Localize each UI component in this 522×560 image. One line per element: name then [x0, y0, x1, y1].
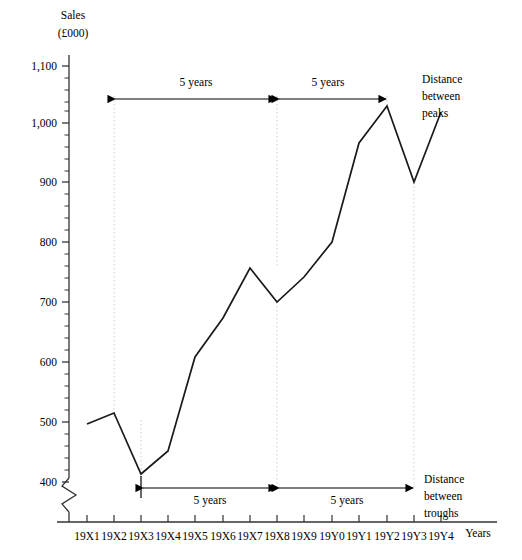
x-axis-label-19Y3: 19Y3: [401, 530, 427, 542]
chart-canvas: Sales (£000): [0, 0, 522, 560]
bottom-span-1-label: 5 years: [194, 494, 227, 507]
x-axis-label-19X6: 19X6: [210, 530, 236, 542]
x-axis-label-19Y0: 19Y0: [319, 530, 345, 542]
x-axis-label-19Y2: 19Y2: [374, 530, 400, 542]
y-axis-minor-ticks: [65, 78, 70, 470]
y-axis-label-800: 800: [40, 236, 58, 248]
y-axis-label-900: 900: [40, 176, 58, 188]
x-axis-labels: 19X1 19X2 19X3 19X4 19X5 19X6 19X7 19X8 …: [74, 530, 454, 542]
annotation-top-span-1: 5 years: [115, 76, 276, 99]
x-axis-label-19X1: 19X1: [74, 530, 100, 542]
sales-line-series: [87, 106, 441, 474]
bottom-span-2-label: 5 years: [331, 494, 364, 507]
x-axis-label-19X7: 19X7: [237, 530, 263, 542]
y-axis-label-700: 700: [40, 296, 58, 308]
top-span-1-label: 5 years: [180, 76, 213, 89]
sales-trend-chart: Sales (£000): [0, 0, 522, 560]
annotation-peaks-note: Distance between peaks: [422, 73, 462, 120]
peaks-note-line1: Distance: [422, 73, 462, 85]
troughs-note-line2: between: [424, 490, 463, 502]
top-span-2-label: 5 years: [312, 76, 345, 89]
annotation-troughs-note: Distance between troughs: [424, 473, 464, 520]
y-axis-label-1100: 1,100: [31, 60, 57, 73]
y-axis-title-line1: Sales: [61, 9, 86, 21]
peaks-note-line2: between: [422, 90, 461, 102]
guide-lines: [114, 96, 414, 487]
x-axis-title: Years: [465, 527, 491, 539]
y-axis-label-400: 400: [40, 476, 58, 488]
x-axis-label-19X3: 19X3: [128, 530, 154, 542]
y-axis-title-line2: (£000): [58, 27, 89, 40]
x-axis-label-19X2: 19X2: [101, 530, 127, 542]
peaks-note-line3: peaks: [422, 107, 449, 120]
y-axis-label-500: 500: [40, 416, 58, 428]
y-axis-ticks: [62, 66, 69, 482]
annotation-bottom-span-1: 5 years: [143, 488, 276, 507]
x-axis-label-19Y1: 19Y1: [346, 530, 372, 542]
x-axis-ticks: [87, 515, 441, 522]
x-axis-label-19Y4: 19Y4: [428, 530, 454, 542]
x-axis-label-19X8: 19X8: [264, 530, 290, 542]
troughs-note-line3: troughs: [424, 507, 459, 520]
troughs-note-line1: Distance: [424, 473, 464, 485]
y-axis-label-600: 600: [40, 356, 58, 368]
x-axis-label-19X9: 19X9: [291, 530, 317, 542]
annotation-bottom-span-2: 5 years: [279, 488, 413, 507]
y-axis-label-1000: 1,000: [31, 117, 57, 130]
x-axis-label-19X4: 19X4: [155, 530, 181, 542]
annotation-top-span-2: 5 years: [279, 76, 386, 99]
x-axis-label-19X5: 19X5: [182, 530, 208, 542]
axis-break-symbol: [62, 478, 76, 512]
